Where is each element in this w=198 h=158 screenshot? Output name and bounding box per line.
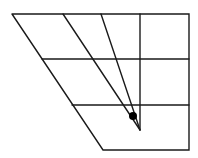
ray-line-1	[63, 14, 140, 130]
converging-rays	[63, 14, 140, 130]
marked-point	[129, 112, 137, 120]
horizontal-grid-lines	[42, 59, 189, 105]
trapezoid-outline	[12, 14, 189, 150]
geometric-diagram	[0, 0, 198, 158]
